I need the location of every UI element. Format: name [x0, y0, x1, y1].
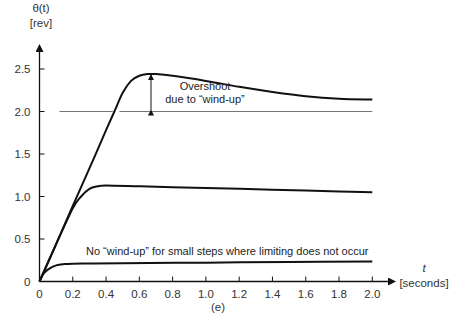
x-tick-label: 0 [36, 288, 42, 300]
step-response-chart: 00.51.01.52.02.5 00.20.40.60.81.01.21.41… [0, 0, 461, 331]
x-tick-label: 1.4 [264, 288, 281, 300]
y-tick-label: 2.0 [15, 106, 31, 118]
x-tick-label: 0.6 [131, 288, 147, 300]
small-step-note: No “wind-up” for small steps where limit… [86, 245, 369, 257]
x-axis-title: t [422, 262, 426, 274]
y-tick-label: 2.5 [15, 63, 31, 75]
x-tick-label: 0.8 [165, 288, 181, 300]
y-tick-label: 1.0 [15, 191, 31, 203]
y-tick-label: 0.5 [15, 233, 31, 245]
x-tick-label: 0.2 [65, 288, 81, 300]
series-line-2 [40, 185, 373, 281]
x-tick-label: 1.6 [298, 288, 314, 300]
x-axis-ticks: 00.20.40.60.81.01.21.41.61.82.0 [36, 277, 380, 300]
figure-caption: (e) [211, 301, 225, 313]
y-tick-label: 1.5 [15, 148, 31, 160]
x-tick-label: 1.8 [331, 288, 347, 300]
y-axis-units: [rev] [30, 17, 52, 29]
x-axis-units: [seconds] [399, 277, 448, 289]
x-tick-label: 1.0 [198, 288, 214, 300]
x-tick-label: 2.0 [364, 288, 380, 300]
x-tick-label: 0.4 [98, 288, 115, 300]
y-tick-label: 0 [24, 276, 30, 288]
y-axis-title: θ(t) [32, 2, 49, 14]
overshoot-label-line1: Overshoot [180, 80, 231, 92]
x-tick-label: 1.2 [231, 288, 247, 300]
overshoot-label-line2: due to “wind-up” [165, 93, 245, 105]
